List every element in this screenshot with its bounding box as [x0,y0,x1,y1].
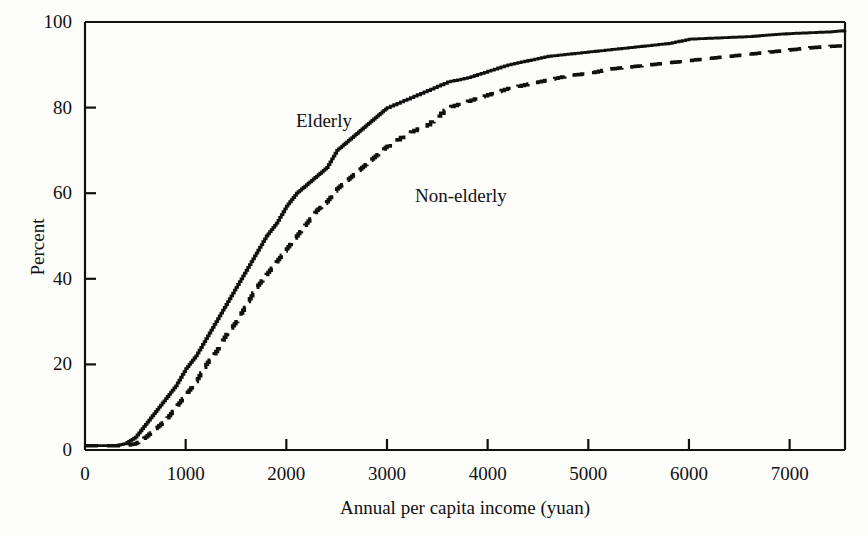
chart-figure: 020406080100 010002000300040005000600070… [0,0,868,535]
x-tick-label: 1000 [167,463,205,485]
x-axis-title: Annual per capita income (yuan) [85,497,845,519]
data-series-group [85,31,845,446]
y-tick-label: 20 [0,353,72,375]
axis-ticks [85,108,790,450]
series-label-elderly: Elderly [296,110,352,132]
series-label-non-elderly: Non-elderly [415,185,507,207]
series-line-elderly [85,31,845,446]
series-line-non-elderly [85,46,845,446]
chart-plot-area [0,0,868,535]
y-tick-label: 80 [0,97,72,119]
y-tick-label: 0 [0,439,72,461]
x-tick-label: 6000 [670,463,708,485]
x-tick-label: 5000 [569,463,607,485]
y-tick-label: 100 [0,11,72,33]
x-tick-label: 4000 [469,463,507,485]
y-axis-title: Percent [27,187,49,307]
x-tick-label: 2000 [267,463,305,485]
axes-frame [85,22,845,450]
x-tick-label: 3000 [368,463,406,485]
x-tick-label: 0 [80,463,90,485]
x-tick-label: 7000 [771,463,809,485]
